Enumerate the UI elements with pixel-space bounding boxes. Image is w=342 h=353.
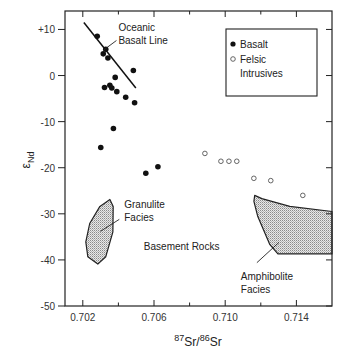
granulite-facies-region: [86, 200, 113, 265]
granulite-facies-label-line2: Facies: [124, 212, 153, 223]
amphibolite-facies-leader: [257, 242, 279, 262]
felsic-intrusive-point: [268, 178, 273, 183]
y-axis-title: εNd: [19, 152, 36, 169]
basalt-point: [123, 94, 129, 100]
x-axis-base1: Sr: [184, 335, 196, 349]
svg-text:εNd: εNd: [19, 152, 36, 169]
basalt-point: [102, 85, 108, 91]
legend-label-felsic-line1: Felsic: [240, 54, 266, 65]
basement-rocks-label-line1: Basement Rocks: [144, 241, 220, 252]
amphibolite-facies-region: [254, 195, 332, 254]
y-tick-label: -50: [41, 301, 56, 312]
basalt-point: [100, 51, 106, 57]
legend-marker-basalt: [230, 41, 235, 46]
x-tick-label: 0.702: [70, 312, 95, 323]
facies-regions: [86, 195, 332, 264]
basalt-point: [111, 126, 117, 132]
oceanic-basalt-line-label-line1: Oceanic: [118, 22, 155, 33]
x-axis-base2: Sr: [210, 335, 222, 349]
amphibolite-facies-label-line2: Facies: [241, 284, 270, 295]
y-tick-label: -30: [41, 209, 56, 220]
basalt-point: [112, 75, 118, 81]
y-tick-label: -10: [41, 117, 56, 128]
y-axis-subscript: Nd: [26, 152, 36, 164]
legend: Basalt Felsic Intrusives: [226, 29, 317, 96]
basalt-point: [109, 85, 115, 91]
y-tick-label: -20: [41, 163, 56, 174]
x-tick-label: 0.706: [141, 312, 166, 323]
felsic-intrusive-point: [203, 151, 208, 156]
legend-label-felsic-line2: Intrusives: [240, 68, 283, 79]
oceanic-basalt-line-leader: [103, 41, 116, 51]
basalt-point: [105, 55, 111, 61]
legend-marker-felsic: [231, 57, 236, 62]
amphibolite-facies-label-line1: Amphibolite: [241, 271, 294, 282]
x-axis-sup1: 87: [174, 333, 184, 343]
felsic-intrusive-point: [252, 176, 257, 181]
basalt-point: [114, 89, 120, 95]
basalt-point: [131, 68, 137, 74]
chart: 0.7020.7060.7100.714+100-10-20-30-40-50 …: [0, 0, 342, 353]
y-tick-label: +10: [38, 24, 55, 35]
felsic-intrusive-point: [219, 159, 224, 164]
basalt-point: [98, 145, 104, 151]
y-tick-label: -40: [41, 255, 56, 266]
oceanic-basalt-line-label-line2: Basalt Line: [118, 35, 168, 46]
felsic-intrusive-point: [227, 159, 232, 164]
x-axis-title: 87Sr/86Sr: [174, 333, 221, 349]
granulite-facies-label-line1: Granulite: [124, 199, 165, 210]
basalt-point: [143, 170, 149, 176]
basalt-point: [94, 34, 100, 40]
svg-text:87Sr/86Sr: 87Sr/86Sr: [174, 333, 221, 349]
basalt-point: [132, 100, 138, 106]
felsic-intrusive-point: [234, 159, 239, 164]
x-axis-sup2: 86: [200, 333, 210, 343]
legend-label-basalt: Basalt: [240, 39, 268, 50]
basalt-point: [155, 164, 161, 170]
y-tick-label: 0: [49, 71, 55, 82]
x-tick-label: 0.714: [284, 312, 309, 323]
felsic-intrusive-point: [301, 193, 306, 198]
x-tick-label: 0.710: [213, 312, 238, 323]
